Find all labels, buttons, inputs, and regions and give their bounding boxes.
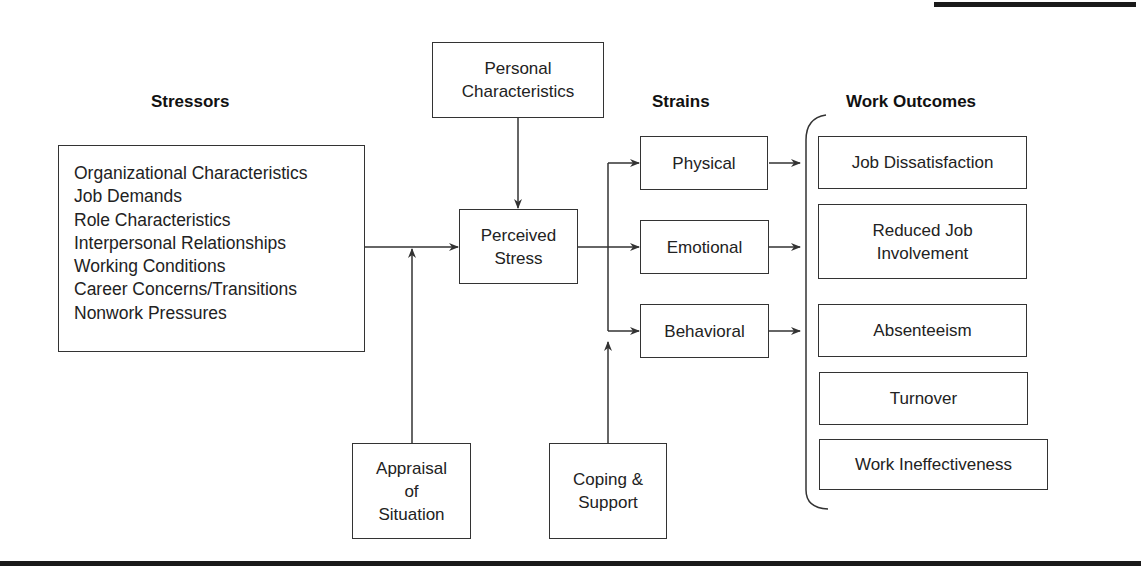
connectors xyxy=(0,0,1141,577)
